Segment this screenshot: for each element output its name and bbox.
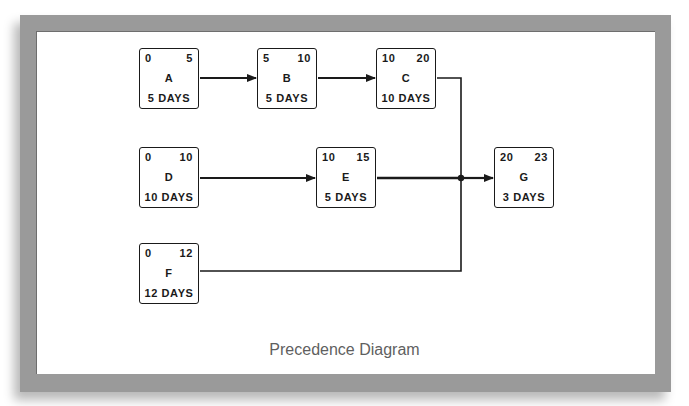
node-e: 10 15 E 5 DAYS — [316, 147, 376, 208]
node-g: 20 23 G 3 DAYS — [494, 147, 554, 208]
activity-name: C — [377, 72, 435, 84]
activity-duration: 10 DAYS — [377, 92, 435, 104]
early-start: 10 — [322, 151, 335, 163]
early-finish: 20 — [417, 52, 430, 64]
early-start: 0 — [145, 151, 152, 163]
activity-duration: 5 DAYS — [317, 191, 375, 203]
early-finish: 10 — [298, 52, 311, 64]
early-start: 10 — [382, 52, 395, 64]
activity-name: A — [140, 72, 198, 84]
activity-duration: 5 DAYS — [258, 92, 316, 104]
merge-junction-dot — [458, 175, 464, 181]
node-c: 10 20 C 10 DAYS — [376, 48, 436, 109]
activity-duration: 10 DAYS — [140, 191, 198, 203]
early-finish: 10 — [180, 151, 193, 163]
early-start: 20 — [500, 151, 513, 163]
node-b: 5 10 B 5 DAYS — [257, 48, 317, 109]
early-start: 0 — [145, 52, 152, 64]
edge-c-junction — [437, 78, 461, 178]
activity-name: E — [317, 171, 375, 183]
node-a: 0 5 A 5 DAYS — [139, 48, 199, 109]
activity-duration: 5 DAYS — [140, 92, 198, 104]
node-d: 0 10 D 10 DAYS — [139, 147, 199, 208]
early-finish: 23 — [535, 151, 548, 163]
node-f: 0 12 F 12 DAYS — [139, 243, 199, 304]
early-finish: 5 — [186, 52, 193, 64]
early-finish: 15 — [357, 151, 370, 163]
early-start: 0 — [145, 247, 152, 259]
activity-duration: 12 DAYS — [140, 287, 198, 299]
activity-name: F — [140, 267, 198, 279]
activity-name: G — [495, 171, 553, 183]
early-start: 5 — [263, 52, 270, 64]
early-finish: 12 — [180, 247, 193, 259]
activity-duration: 3 DAYS — [495, 191, 553, 203]
activity-name: D — [140, 171, 198, 183]
diagram-caption: Precedence Diagram — [0, 341, 689, 359]
activity-name: B — [258, 72, 316, 84]
